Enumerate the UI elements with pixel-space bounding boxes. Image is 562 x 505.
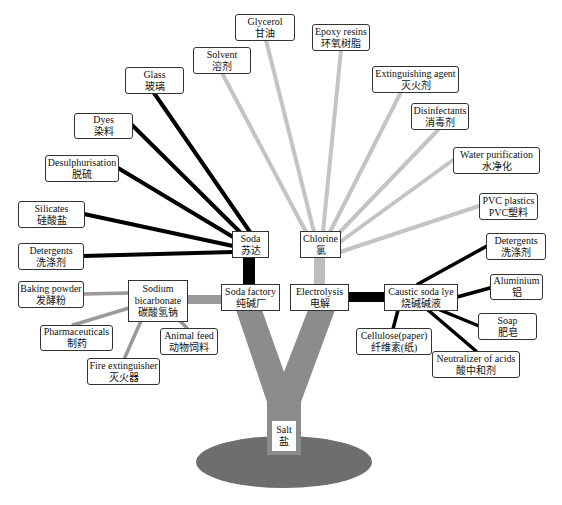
node-label-en: Extinguishing agent	[375, 68, 455, 80]
node-label-zh: 灭火剂	[401, 80, 431, 92]
edge-electrolysis-caustic	[348, 292, 385, 302]
node-label-en: Soap	[498, 315, 518, 327]
node-chlorine: Chlorine 氯	[300, 231, 341, 258]
node-disinfectants: Disinfectants 消毒剂	[411, 103, 469, 130]
node-pharmaceuticals: Pharmaceuticals 制药	[40, 325, 113, 351]
node-label-zh: 制药	[67, 338, 87, 350]
node-label-zh: 纤维素(纸)	[371, 342, 418, 354]
node-label-en: Dyes	[93, 114, 114, 126]
edge-factory-bicarbonate	[186, 295, 222, 304]
node-label-zh: 甘油	[255, 28, 275, 40]
node-label-en: Fire extinguisher	[89, 360, 157, 372]
node-label-zh: 酸中和剂	[456, 365, 496, 377]
node-label-en: Sodium	[142, 283, 173, 295]
node-aluminium: Aluminium 铝	[490, 274, 543, 300]
node-label-en: Desulphurisation	[48, 157, 116, 169]
node-label-zh: 碳酸氢钠	[138, 307, 178, 319]
node-soda-factory: Soda factory 纯碱厂	[221, 284, 280, 311]
node-cellulose-paper: Cellulose(paper) 纤维素(纸)	[356, 328, 432, 355]
salt-products-tree-diagram: Glass 玻璃 Dyes 染料 Desulphurisation 脱硫 Sil…	[0, 0, 562, 505]
node-label-en: Soda	[241, 233, 261, 245]
edge-electrolysis-chlorine	[314, 257, 325, 285]
node-label-en: Neutralizer of acids	[437, 353, 516, 365]
node-silicates: Silicates 硅酸盐	[18, 201, 85, 228]
node-label-en: Disinfectants	[414, 105, 467, 117]
node-label-en: Electrolysis	[296, 286, 343, 298]
node-label-zh: 玻璃	[145, 81, 165, 93]
node-solvent: Solvent 溶剂	[193, 47, 251, 74]
node-soap: Soap 肥皂	[478, 313, 537, 340]
node-label-en: Animal feed	[164, 330, 214, 342]
node-label-en: PVC plastics	[483, 195, 535, 207]
node-label-zh: 烧碱碱液	[401, 298, 441, 310]
node-label-en: Detergents	[494, 235, 537, 247]
node-label-en: Cellulose(paper)	[361, 330, 428, 342]
node-label-zh: 盐	[279, 436, 289, 448]
node-label-zh: 动物饲料	[169, 342, 209, 354]
node-label-en: Detergents	[29, 245, 72, 257]
node-label-zh: 电解	[310, 298, 330, 310]
node-soda: Soda 苏达	[232, 231, 269, 258]
node-extinguishing-agent: Extinguishing agent 灭火剂	[372, 66, 459, 93]
node-label-zh: 铝	[512, 287, 522, 299]
node-glycerol: Glycerol 甘油	[235, 14, 295, 41]
node-label-zh: 纯碱厂	[236, 298, 266, 310]
node-label-zh: 溶剂	[212, 61, 232, 73]
node-label-en: Baking powder	[20, 283, 81, 295]
node-label-zh: 灭火器	[109, 372, 139, 384]
node-label-zh: 染料	[94, 126, 114, 138]
node-label-zh: 肥皂	[498, 327, 518, 339]
node-baking-powder: Baking powder 发酵粉	[18, 281, 84, 308]
node-label-en: Glass	[143, 69, 165, 81]
node-label-en: Epoxy resins	[315, 26, 367, 38]
node-label-zh: 苏达	[241, 245, 261, 257]
node-label-en: Aluminium	[493, 275, 539, 287]
node-label-en: Soda factory	[225, 286, 276, 298]
node-salt: Salt 盐	[272, 421, 296, 451]
node-label-en: Caustic soda lye	[388, 286, 454, 298]
node-animal-feed: Animal feed 动物饲料	[160, 328, 218, 355]
node-water-purification: Water purification 水净化	[453, 147, 540, 174]
node-label-en: Chlorine	[303, 233, 338, 245]
node-label-zh: 洗涤剂	[36, 257, 66, 269]
node-label-zh: 脱硫	[72, 169, 92, 181]
node-label-zh: PVC塑料	[489, 207, 528, 219]
node-label-en: Pharmaceuticals	[44, 326, 110, 338]
node-caustic-soda-lye: Caustic soda lye 烧碱碱液	[384, 284, 458, 311]
node-electrolysis: Electrolysis 电解	[290, 284, 349, 311]
node-label-zh: 消毒剂	[425, 117, 455, 129]
node-desulphurisation: Desulphurisation 脱硫	[45, 155, 119, 182]
node-pvc-plastics: PVC plastics PVC塑料	[479, 193, 538, 220]
edge-factory-soda	[243, 257, 255, 285]
node-fire-extinguisher: Fire extinguisher 灭火器	[87, 358, 160, 385]
node-neutralizer-of-acids: Neutralizer of acids 酸中和剂	[432, 351, 520, 378]
node-label-zh: 环氧树脂	[321, 38, 361, 50]
node-detergents-caustic: Detergents 洗涤剂	[486, 233, 546, 260]
node-sodium-bicarbonate: Sodium bicarbonate 碳酸氢钠	[128, 280, 188, 322]
node-label-en: Glycerol	[248, 16, 283, 28]
node-dyes: Dyes 染料	[74, 113, 133, 139]
node-label-zh: 洗涤剂	[501, 247, 531, 259]
node-label-zh: 发酵粉	[36, 295, 66, 307]
node-label-en: Water purification	[460, 149, 533, 161]
node-label-en: Salt	[276, 424, 292, 436]
node-label-en: Silicates	[35, 203, 69, 215]
node-detergents-soda: Detergents 洗涤剂	[18, 243, 84, 270]
node-glass: Glass 玻璃	[125, 67, 184, 94]
node-epoxy-resins: Epoxy resins 环氧树脂	[312, 24, 370, 51]
node-label-en: bicarbonate	[135, 295, 182, 307]
node-label-zh: 硅酸盐	[37, 215, 67, 227]
node-label-zh: 氯	[316, 245, 326, 257]
node-label-zh: 水净化	[482, 161, 512, 173]
node-label-en: Solvent	[207, 49, 238, 61]
